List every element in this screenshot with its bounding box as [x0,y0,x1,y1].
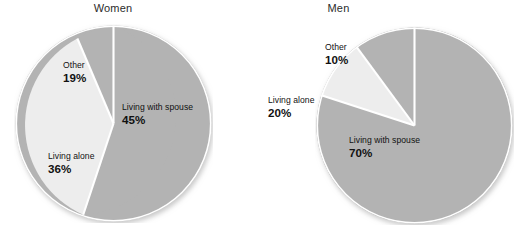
pie-svg-men [315,26,514,225]
pie-svg-women [14,24,213,223]
pie-graphic-men [315,26,514,225]
chart-title-men: Men [226,1,451,15]
pie-graphic-women [14,24,213,223]
chart-title-women: Women [0,1,226,15]
pie-slices-women [16,26,212,222]
pie-chart-men: Men [226,0,451,232]
pie-slices-men [316,28,512,224]
pie-chart-women: Women [0,0,226,232]
